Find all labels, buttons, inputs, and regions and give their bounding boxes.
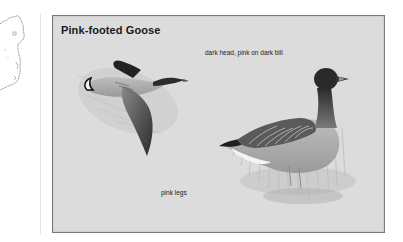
standing-goose-illustration: [219, 68, 356, 204]
species-plate: Pink-footed Goose dark head, pink on dar…: [52, 15, 385, 233]
annotation-head: dark head, pink on dark bill: [205, 49, 283, 56]
annotation-legs: pink legs: [161, 189, 187, 196]
distribution-map-icon: [0, 10, 30, 90]
species-title: Pink-footed Goose: [61, 24, 160, 36]
flying-goose-illustration: [69, 55, 189, 156]
column-divider: [40, 14, 41, 234]
